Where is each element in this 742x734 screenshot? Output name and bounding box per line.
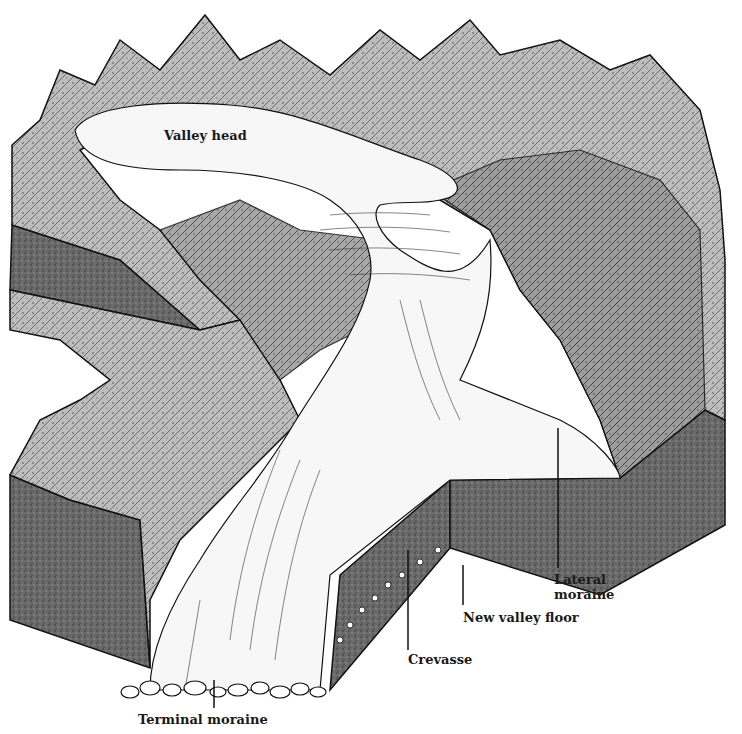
glacier-block-diagram <box>0 0 742 734</box>
label-valley-head: Valley head <box>164 128 247 143</box>
label-crevasse: Crevasse <box>408 652 472 667</box>
label-lateral-moraine-line2: moraine <box>554 587 614 602</box>
label-lateral-moraine-line1: Lateral <box>554 572 606 587</box>
label-terminal-moraine: Terminal moraine <box>138 712 268 727</box>
label-new-valley-floor: New valley floor <box>463 610 579 625</box>
